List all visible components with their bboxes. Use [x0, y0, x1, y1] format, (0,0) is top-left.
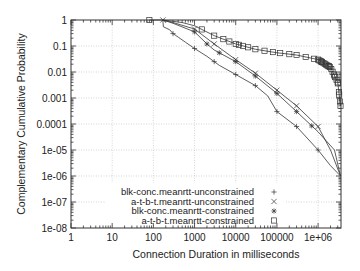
- data-point-marker: [192, 29, 197, 34]
- y-tick-label: 0.1: [53, 41, 67, 52]
- data-point-marker: [294, 109, 299, 114]
- x-tick-label: 1: [68, 232, 74, 243]
- series-cross: [160, 17, 340, 176]
- series-layer: [147, 17, 343, 176]
- y-tick-label: 1e-05: [41, 145, 67, 156]
- x-tick-label: 100000: [260, 232, 294, 243]
- legend-marker-star: [271, 208, 276, 213]
- y-tick-label: 1e-06: [41, 171, 67, 182]
- data-point-marker: [192, 46, 197, 51]
- data-point-marker: [274, 91, 279, 96]
- y-tick-label: 0.001: [42, 93, 67, 104]
- data-point-marker: [294, 103, 299, 108]
- x-axis-title: Connection Duration in milliseconds: [133, 248, 300, 260]
- data-point-marker: [233, 59, 238, 64]
- x-tick-label: 10: [107, 232, 119, 243]
- y-axis-title: Complementary Cumulative Probability: [15, 33, 27, 215]
- ccdf-chart: blk-conc.meanrtt-unconstraineda-t-b-t.me…: [0, 0, 360, 271]
- x-tick-label: 100: [145, 232, 162, 243]
- data-point-marker: [253, 73, 258, 78]
- data-point-marker: [309, 123, 314, 128]
- x-tick-label: 1e+06: [304, 232, 333, 243]
- y-tick-label: 0.0001: [36, 119, 67, 130]
- data-point-marker: [212, 59, 217, 64]
- x-tick-label: 1000: [183, 232, 206, 243]
- y-tick-label: 0.01: [48, 67, 68, 78]
- y-tick-label: 1e-08: [41, 223, 67, 234]
- y-tick-label: 1e-07: [41, 197, 67, 208]
- x-tick-label: 10000: [222, 232, 250, 243]
- series-square: [147, 17, 343, 108]
- series-line: [149, 20, 340, 106]
- data-point-marker: [204, 41, 209, 46]
- data-point-marker: [233, 72, 238, 77]
- legend: blk-conc.meanrtt-unconstraineda-t-b-t.me…: [121, 186, 277, 226]
- data-point-marker: [217, 50, 222, 55]
- y-tick-label: 1: [61, 15, 67, 26]
- legend-label: a-t-b-t.meanrtt-constrained: [142, 215, 254, 226]
